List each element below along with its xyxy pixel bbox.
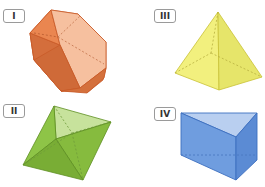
- square-pyramid-figure: [175, 12, 262, 90]
- figure-label-iii: III: [154, 9, 176, 23]
- figure-canvas: [0, 0, 265, 187]
- hexagonal-prism-figure: [30, 10, 106, 93]
- octahedron-figure: [23, 106, 111, 180]
- triangular-prism-figure: [181, 113, 257, 180]
- figure-label-iv: IV: [154, 107, 176, 121]
- figure-label-i: I: [3, 9, 25, 23]
- figure-label-ii: II: [3, 104, 25, 118]
